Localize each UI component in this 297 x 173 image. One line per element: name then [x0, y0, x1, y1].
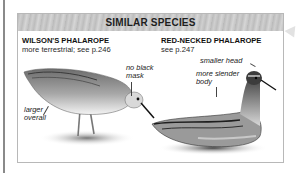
- page-margin-rule: [3, 0, 5, 173]
- panel-title: SIMILAR SPECIES: [105, 17, 195, 28]
- similar-species-panel: SIMILAR SPECIES WILSON'S PHALAROPE more …: [17, 13, 284, 163]
- species-note-red-necked: see p.247: [161, 45, 194, 54]
- species-note-wilsons: more terrestrial; see p.246: [22, 45, 111, 54]
- annotation-more-slender-body: more slender body: [196, 70, 239, 86]
- species-name-red-necked: RED-NECKED PHALAROPE: [161, 36, 261, 45]
- annotation-smaller-head: smaller head: [200, 57, 242, 65]
- page-edge-mark: [284, 26, 297, 40]
- species-name-wilsons: WILSON'S PHALAROPE: [22, 36, 109, 45]
- leader-line-body: [216, 87, 217, 97]
- leader-line-mask: [131, 82, 132, 96]
- panel-header: SIMILAR SPECIES: [18, 14, 283, 31]
